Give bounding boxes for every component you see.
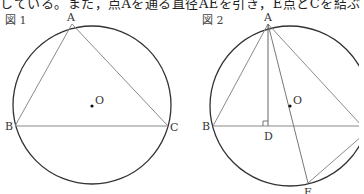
label-c: C: [170, 121, 178, 134]
label-o: O: [293, 94, 302, 107]
label-a: A: [66, 11, 76, 24]
center-point-o: [288, 104, 291, 107]
center-point-o: [90, 104, 93, 107]
label-d: D: [264, 130, 273, 143]
segment-ab: [213, 24, 268, 126]
label-a: A: [263, 11, 273, 24]
triangle-abc: [15, 24, 168, 126]
segment-ec: [308, 136, 359, 183]
circumcircle: [210, 26, 359, 186]
right-angle-mark: [263, 121, 268, 126]
figure-2-title: 図 2: [202, 14, 224, 27]
segment-ac: [268, 24, 359, 126]
figure-1: 図 1 A B C O: [5, 11, 178, 184]
label-e: E: [304, 186, 312, 194]
label-b: B: [5, 120, 13, 133]
figure-1-title: 図 1: [5, 14, 27, 27]
label-b: B: [202, 120, 210, 133]
label-o: O: [95, 94, 104, 107]
figure-2: 図 2 A B D O E: [202, 11, 359, 194]
